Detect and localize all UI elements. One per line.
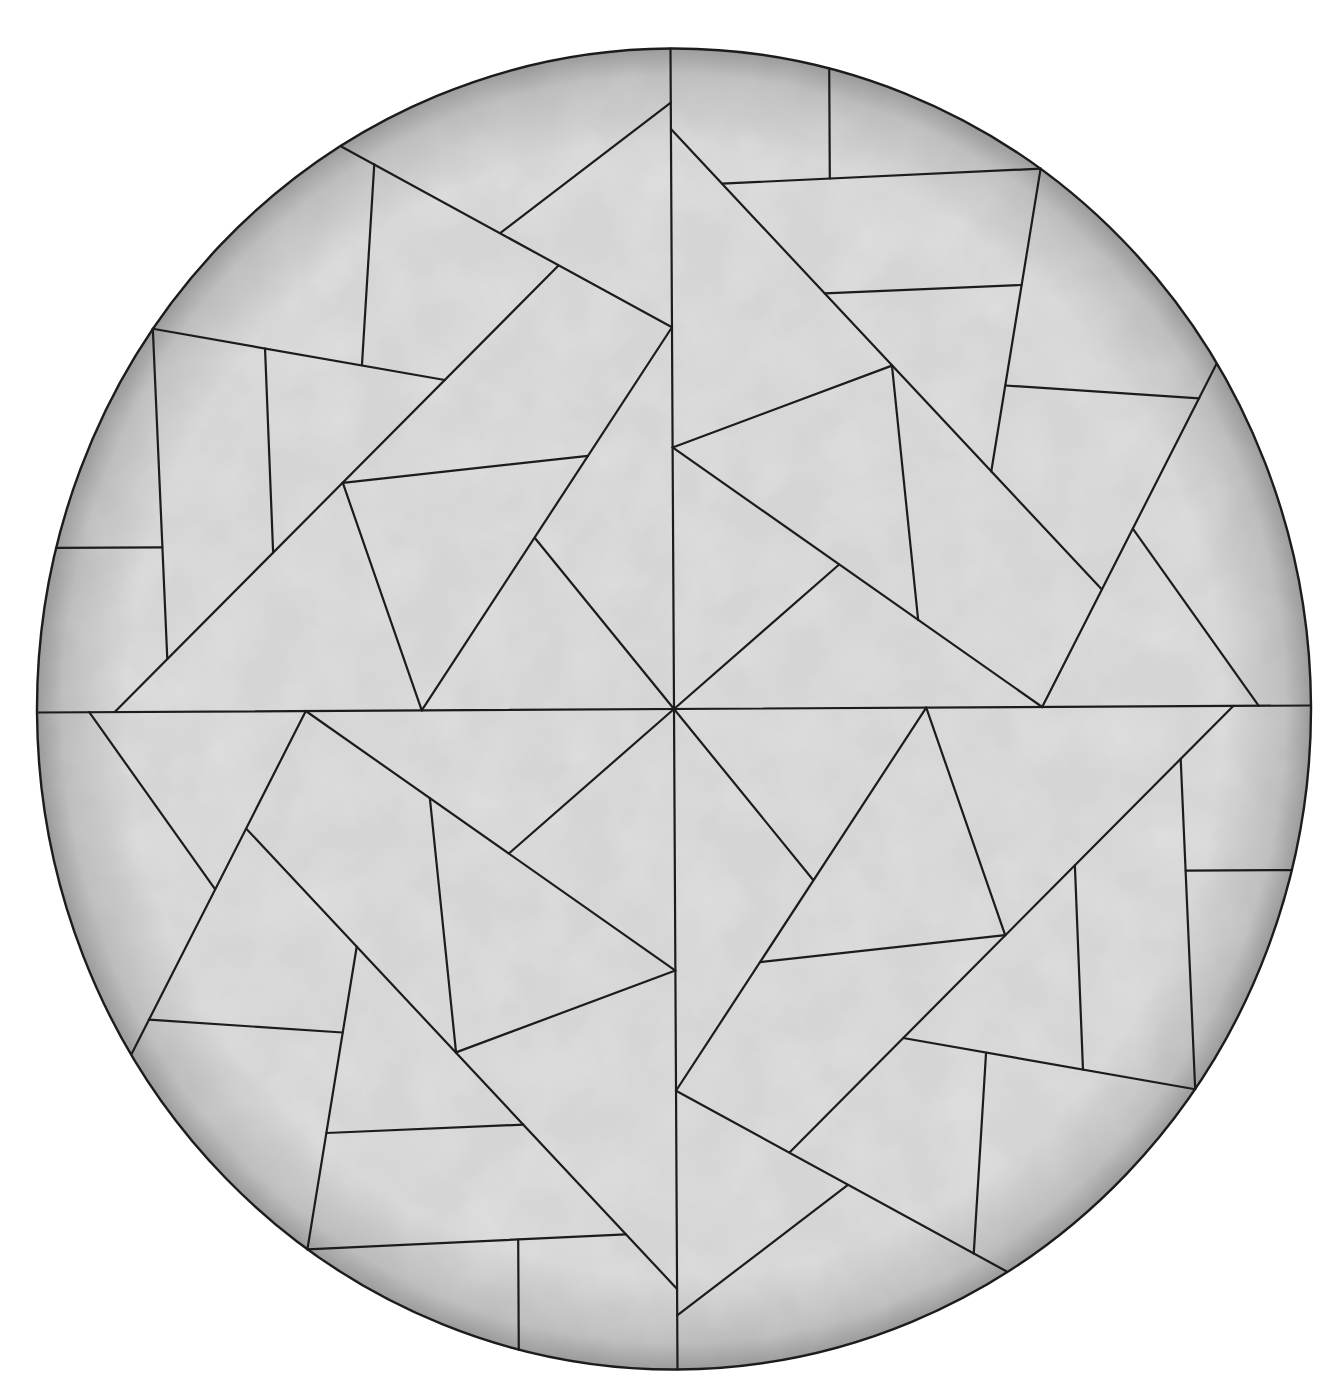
top-right-segment-8 <box>829 68 830 178</box>
bottom-right-segment-8 <box>1186 870 1292 871</box>
top-left-segment-8 <box>56 547 162 548</box>
bottom-left-segment-8 <box>518 1240 519 1350</box>
figure-geometry <box>33 45 1314 1373</box>
dissected-circle-figure <box>0 0 1344 1396</box>
